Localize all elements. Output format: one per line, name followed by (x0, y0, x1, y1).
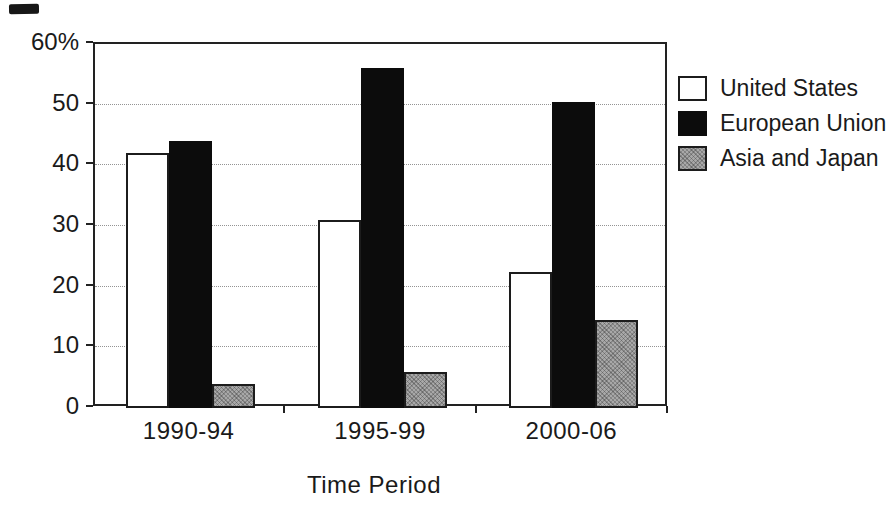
legend-item-asia-and-japan: Asia and Japan (678, 146, 886, 171)
y-tick-mark-0 (86, 405, 93, 407)
x-tick-mark-2 (475, 406, 477, 413)
bar-european-union-1990-94 (169, 141, 212, 408)
y-tick-label-60: 60% (0, 30, 79, 54)
bar-united-states-1995-99 (318, 220, 361, 408)
x-category-label-1995-99: 1995-99 (290, 419, 470, 443)
y-tick-mark-10 (86, 344, 93, 346)
legend-label: United States (720, 76, 858, 101)
bar-united-states-2000-06 (509, 272, 552, 409)
y-tick-label-40: 40 (0, 151, 79, 175)
bar-asia-and-japan-1990-94 (212, 384, 255, 408)
y-tick-label-20: 20 (0, 273, 79, 297)
x-tick-mark-1 (283, 406, 285, 413)
y-tick-label-10: 10 (0, 333, 79, 357)
x-tick-mark-3 (666, 406, 668, 413)
x-category-label-1990-94: 1990-94 (99, 419, 279, 443)
legend-item-united-states: United States (678, 76, 886, 101)
y-tick-mark-60 (86, 41, 93, 43)
legend-label: Asia and Japan (720, 146, 879, 171)
y-tick-mark-40 (86, 162, 93, 164)
legend-item-european-union: European Union (678, 111, 886, 136)
x-axis-title: Time Period (93, 471, 655, 499)
plot-area (93, 42, 667, 406)
legend-swatch-united-states (678, 76, 707, 101)
legend-swatch-asia-and-japan (678, 146, 707, 171)
y-tick-label-30: 30 (0, 212, 79, 236)
bar-asia-and-japan-1995-99 (404, 372, 447, 408)
bar-asia-and-japan-2000-06 (595, 320, 638, 408)
scan-artifact-mark (9, 4, 39, 15)
bar-united-states-1990-94 (126, 153, 169, 408)
y-tick-mark-20 (86, 284, 93, 286)
legend-swatch-european-union (678, 111, 707, 136)
x-category-label-2000-06: 2000-06 (481, 419, 661, 443)
bar-european-union-2000-06 (552, 102, 595, 408)
legend: United StatesEuropean UnionAsia and Japa… (678, 76, 886, 171)
bar-chart-figure: 0102030405060%1990-941995-992000-06 Time… (0, 0, 889, 505)
y-tick-mark-50 (86, 102, 93, 104)
legend-label: European Union (720, 111, 886, 136)
bar-european-union-1995-99 (361, 68, 404, 408)
y-tick-label-0: 0 (0, 394, 79, 418)
y-tick-mark-30 (86, 223, 93, 225)
y-tick-label-50: 50 (0, 91, 79, 115)
